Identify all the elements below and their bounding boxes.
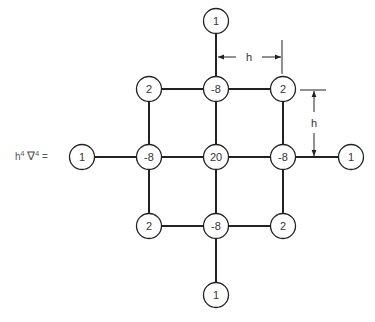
node-value: 1 <box>79 151 85 163</box>
node-value: 2 <box>280 220 286 232</box>
vertical-dimension-label: h <box>311 117 317 129</box>
node-value: -8 <box>144 151 154 163</box>
stencil-node-bottom: 1 <box>204 283 229 308</box>
stencil-node-upper-left: 2 <box>137 77 162 102</box>
stencil-node-top: 1 <box>204 9 229 34</box>
node-value: 1 <box>213 15 219 27</box>
stencil-node-upper-right: 2 <box>271 77 296 102</box>
stencil-node-upper-center: -8 <box>204 77 229 102</box>
node-value: 2 <box>280 83 286 95</box>
formula-label: h4 ∇4 = <box>15 149 48 163</box>
stencil-node-lower-right: 2 <box>271 214 296 239</box>
horizontal-dimension-label: h <box>246 51 252 63</box>
formula-equals: = <box>42 151 48 162</box>
biharmonic-stencil-diagram: h4 ∇4 = h h <box>0 0 375 322</box>
node-value: -8 <box>278 151 288 163</box>
node-value: 1 <box>213 289 219 301</box>
node-value: 1 <box>348 151 354 163</box>
node-value: -8 <box>211 83 221 95</box>
stencil-node-mid-right: -8 <box>271 145 296 170</box>
formula-h-exponent: 4 <box>21 150 25 157</box>
stencil-node-mid-left: -8 <box>137 145 162 170</box>
stencil-node-lower-left: 2 <box>137 214 162 239</box>
stencil-node-lower-center: -8 <box>204 214 229 239</box>
stencil-node-far-right: 1 <box>339 145 364 170</box>
node-value: 2 <box>146 83 152 95</box>
node-value: -8 <box>211 220 221 232</box>
formula-nabla-exponent: 4 <box>35 150 39 157</box>
node-value: 2 <box>146 220 152 232</box>
stencil-node-far-left: 1 <box>70 145 95 170</box>
node-value: 20 <box>210 151 222 163</box>
stencil-svg: h h 12-821-820-812-821 <box>0 0 375 322</box>
stencil-node-center: 20 <box>204 145 229 170</box>
